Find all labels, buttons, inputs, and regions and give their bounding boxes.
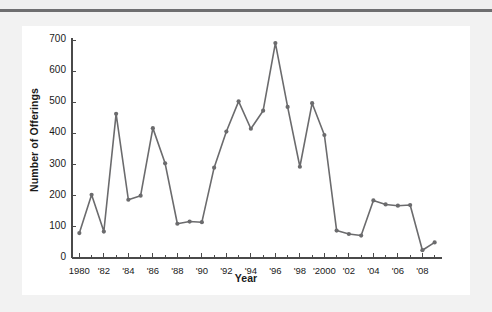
data-point [298, 165, 302, 169]
data-point [347, 232, 351, 236]
data-point [237, 99, 241, 103]
y-tick-label: 100 [26, 220, 66, 231]
data-point [126, 198, 130, 202]
axis-lines [72, 38, 442, 258]
data-point [212, 166, 216, 170]
data-point [188, 219, 192, 223]
data-point [384, 202, 388, 206]
line-chart-canvas [22, 26, 470, 295]
figure-panel: Number of Offerings Year 010020030040050… [22, 26, 470, 295]
data-point [286, 105, 290, 109]
axis-ticks [72, 40, 435, 258]
data-point [273, 41, 277, 45]
data-point [114, 112, 118, 116]
data-point [249, 127, 253, 131]
data-point [433, 240, 437, 244]
y-tick-label: 500 [26, 95, 66, 106]
data-point [90, 193, 94, 197]
y-tick-label: 400 [26, 126, 66, 137]
data-point [151, 126, 155, 130]
data-point [77, 231, 81, 235]
data-point [359, 233, 363, 237]
data-point [261, 109, 265, 113]
data-point [371, 198, 375, 202]
y-tick-label: 0 [26, 251, 66, 262]
y-tick-label: 200 [26, 189, 66, 200]
data-markers [77, 41, 437, 252]
y-tick-label: 700 [26, 33, 66, 44]
data-point [396, 204, 400, 208]
data-point [224, 129, 228, 133]
data-point [335, 228, 339, 232]
data-point [408, 203, 412, 207]
plot-area: 0100200300400500600700 1980'82'84'86'88'… [22, 26, 470, 295]
y-tick-label: 600 [26, 64, 66, 75]
data-point [139, 194, 143, 198]
data-point [175, 222, 179, 226]
y-tick-label: 300 [26, 158, 66, 169]
data-point [200, 220, 204, 224]
data-line [79, 43, 434, 250]
data-point [163, 161, 167, 165]
data-point [102, 229, 106, 233]
data-point [310, 101, 314, 105]
x-tick-label: '08 [398, 265, 446, 276]
data-point [322, 133, 326, 137]
data-point [420, 248, 424, 252]
